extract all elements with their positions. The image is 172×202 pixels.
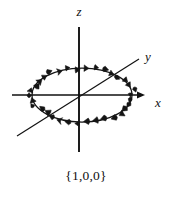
- ring-arrow-glyph: [34, 83, 39, 89]
- ring-arrow-glyph: [109, 70, 114, 76]
- ring-arrow-glyph: [133, 87, 137, 92]
- ring-arrow-glyph: [27, 88, 33, 93]
- ring-arrow-glyph: [30, 98, 36, 104]
- x-axis-label: x: [154, 95, 161, 110]
- ring-arrow-glyph: [27, 93, 31, 98]
- ring-arrow-glyph: [42, 75, 47, 80]
- ring-arrow-glyph: [122, 106, 128, 111]
- y-axis-label: y: [143, 49, 151, 64]
- ring-arrow-glyph: [111, 115, 117, 121]
- ring-arrow-glyph: [49, 115, 54, 120]
- ring-arrow-glyph: [122, 77, 127, 82]
- z-axis-label: z: [75, 4, 81, 19]
- ring-arrow-glyph: [127, 102, 131, 107]
- ring-arrow-glyph: [84, 118, 90, 124]
- figure-caption: {1,0,0}: [0, 168, 172, 184]
- ring-arrow-glyph: [128, 97, 132, 102]
- ring-arrow-glyph: [93, 117, 99, 124]
- ring-arrow-glyph: [84, 65, 89, 72]
- ring-arrow-glyph: [103, 66, 109, 72]
- ring-arrow-glyph: [65, 65, 70, 70]
- figure-container: z y x {1,0,0}: [0, 0, 172, 202]
- ring-arrow-glyph: [31, 104, 35, 108]
- x-axis-arrowhead-icon: [137, 91, 145, 98]
